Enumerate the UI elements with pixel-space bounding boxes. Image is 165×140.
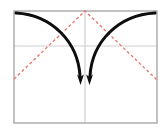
diagram-container [0, 0, 165, 140]
figure-background [0, 0, 165, 140]
diagram-svg [0, 0, 165, 140]
